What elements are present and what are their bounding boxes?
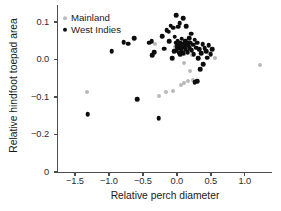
data-point-westindies	[109, 49, 114, 54]
scatter-plot-figure: 0.10.0−0.1−0.20 −1.5−1.0−0.50.00.51.0 Re…	[0, 0, 281, 211]
y-tick-mark	[54, 21, 58, 22]
y-tick-label: 0	[44, 167, 49, 177]
data-point-westindies	[181, 16, 186, 21]
y-tick-mark	[54, 134, 58, 135]
data-point-westindies	[189, 32, 194, 37]
x-tick-label: −1.0	[100, 176, 118, 186]
data-point-westindies	[166, 29, 171, 34]
data-point-westindies	[86, 112, 91, 117]
data-point-westindies	[167, 39, 172, 44]
data-point-westindies	[209, 52, 214, 57]
data-point-westindies	[184, 24, 189, 29]
data-point-westindies	[177, 21, 182, 26]
y-tick-label: −0.1	[31, 92, 49, 102]
data-point-westindies	[156, 116, 161, 121]
data-point-westindies	[198, 67, 203, 72]
data-point-mainland	[157, 94, 161, 98]
y-tick-mark	[54, 171, 58, 172]
x-tick-label: 1.0	[239, 176, 252, 186]
x-tick-label: −0.5	[134, 176, 152, 186]
data-point-westindies	[135, 97, 140, 102]
y-tick-mark	[54, 59, 58, 60]
y-tick-label: −0.2	[31, 129, 49, 139]
data-point-mainland	[182, 61, 186, 65]
data-point-westindies	[201, 62, 206, 67]
data-point-westindies	[210, 47, 215, 52]
data-point-westindies	[126, 41, 131, 46]
data-point-westindies	[162, 46, 167, 51]
y-tick-mark	[54, 96, 58, 97]
data-point-mainland	[182, 81, 186, 85]
data-point-mainland	[164, 90, 168, 94]
data-point-westindies	[149, 39, 154, 44]
x-axis-title: Relative perch diameter	[58, 190, 272, 201]
y-axis-title: Relative hindfoot toepad area	[8, 1, 19, 171]
data-point-mainland	[85, 90, 89, 94]
data-point-westindies	[170, 56, 175, 61]
x-tick-label: 0.0	[171, 176, 184, 186]
data-point-westindies	[152, 50, 157, 55]
data-point-mainland	[171, 89, 175, 93]
data-point-westindies	[174, 13, 179, 18]
data-point-westindies	[196, 56, 201, 61]
data-point-westindies	[195, 41, 200, 46]
data-point-mainland	[258, 63, 262, 67]
x-tick-label: −1.5	[66, 176, 84, 186]
data-point-westindies	[132, 36, 137, 41]
y-tick-label: 0.0	[36, 54, 49, 64]
data-point-westindies	[192, 80, 197, 85]
data-point-mainland	[188, 69, 192, 73]
x-tick-label: 0.5	[205, 176, 218, 186]
data-point-mainland	[213, 56, 217, 60]
data-point-westindies	[160, 34, 165, 39]
y-tick-label: 0.1	[36, 17, 49, 27]
